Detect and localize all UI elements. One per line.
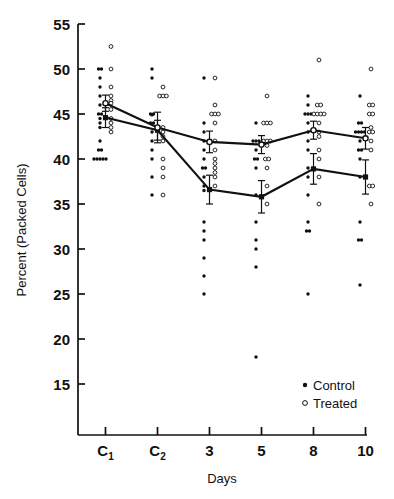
- treated-raw-points: [109, 45, 375, 206]
- control-data-point: [306, 193, 309, 196]
- treated-data-point: [217, 112, 221, 116]
- control-data-point: [360, 130, 363, 133]
- treated-data-point: [317, 157, 321, 161]
- treated-mean-series: [102, 95, 369, 154]
- treated-data-point: [265, 94, 269, 98]
- treated-data-point: [213, 157, 217, 161]
- x-axis-tick-labels: C1C235810: [97, 442, 374, 462]
- control-data-point: [98, 126, 101, 129]
- y-tick-label: 40: [53, 151, 70, 168]
- treated-data-point: [161, 139, 165, 143]
- y-axis-ticks: [78, 24, 85, 384]
- treated-mean-marker: [103, 101, 108, 106]
- x-tick-label: 8: [309, 442, 317, 459]
- control-data-point: [98, 94, 101, 97]
- x-tick-label: C2: [149, 442, 166, 462]
- treated-data-point: [369, 148, 373, 152]
- control-data-point: [306, 94, 309, 97]
- treated-data-point: [213, 76, 217, 80]
- treated-data-point: [213, 166, 217, 170]
- x-tick-label: 10: [357, 442, 374, 459]
- control-data-point: [306, 220, 309, 223]
- treated-data-point: [109, 108, 113, 112]
- control-data-point: [202, 220, 205, 223]
- control-data-point: [150, 193, 153, 196]
- control-data-point: [202, 148, 205, 151]
- control-data-point: [202, 121, 205, 124]
- control-data-point: [358, 283, 361, 286]
- y-tick-label: 20: [53, 331, 70, 348]
- control-data-point: [306, 139, 309, 142]
- scatter-plot-canvas: 152025303540455055 C1C235810 Percent (Pa…: [0, 0, 394, 499]
- control-data-point: [97, 112, 100, 115]
- control-data-point: [150, 175, 153, 178]
- control-data-point: [98, 121, 101, 124]
- y-tick-label: 50: [53, 61, 70, 78]
- treated-data-point: [317, 148, 321, 152]
- x-tick-label: 3: [205, 442, 213, 459]
- treated-data-point: [371, 130, 375, 134]
- control-data-point: [254, 238, 257, 241]
- control-data-point: [354, 130, 357, 133]
- legend-control-label: Control: [313, 378, 355, 393]
- x-axis-ticks: [106, 427, 366, 435]
- treated-data-point: [109, 130, 113, 134]
- y-tick-label: 35: [53, 196, 70, 213]
- treated-data-point: [267, 157, 271, 161]
- control-data-point: [305, 229, 308, 232]
- control-data-point: [202, 157, 205, 160]
- control-mean-marker: [103, 115, 108, 120]
- control-mean-marker: [363, 174, 368, 179]
- treated-data-point: [265, 202, 269, 206]
- y-axis-tick-labels: 152025303540455055: [53, 16, 70, 393]
- treated-data-point: [317, 135, 321, 139]
- treated-mean-marker: [259, 142, 264, 147]
- control-mean-marker: [259, 194, 264, 199]
- control-data-point: [98, 76, 101, 79]
- treated-data-point: [161, 193, 165, 197]
- control-data-point: [98, 157, 101, 160]
- treated-data-point: [161, 85, 165, 89]
- treated-data-point: [317, 202, 321, 206]
- control-data-point: [251, 139, 254, 142]
- treated-data-point: [319, 103, 323, 107]
- control-data-point: [357, 130, 360, 133]
- treated-data-point: [109, 121, 113, 125]
- control-raw-points: [92, 67, 366, 358]
- control-data-point: [358, 157, 361, 160]
- treated-data-point: [109, 45, 113, 49]
- y-tick-label: 25: [53, 286, 70, 303]
- control-data-point: [256, 157, 259, 160]
- control-data-point: [360, 238, 363, 241]
- control-data-point: [97, 148, 100, 151]
- treated-data-point: [161, 130, 165, 134]
- control-data-point: [101, 157, 104, 160]
- axis-lines: [78, 24, 367, 435]
- control-data-point: [150, 148, 153, 151]
- control-data-point: [306, 112, 309, 115]
- control-mean-line: [106, 118, 366, 197]
- y-tick-label: 15: [53, 376, 70, 393]
- control-data-point: [254, 139, 257, 142]
- control-data-point: [303, 112, 306, 115]
- control-data-point: [357, 121, 360, 124]
- control-data-point: [150, 67, 153, 70]
- treated-mean-marker: [155, 125, 160, 130]
- treated-data-point: [317, 121, 321, 125]
- control-data-point: [308, 229, 311, 232]
- treated-data-point: [269, 121, 273, 125]
- control-data-point: [202, 229, 205, 232]
- treated-data-point: [109, 67, 113, 71]
- treated-data-point: [213, 148, 217, 152]
- control-data-point: [202, 292, 205, 295]
- control-data-point: [306, 148, 309, 151]
- x-tick-label: 5: [257, 442, 265, 459]
- treated-data-point: [265, 184, 269, 188]
- treated-data-point: [213, 171, 217, 175]
- control-data-point: [357, 238, 360, 241]
- control-data-point: [202, 130, 205, 133]
- control-data-point: [254, 247, 257, 250]
- x-tick-label: C1: [97, 442, 114, 462]
- control-data-point: [95, 157, 98, 160]
- treated-data-point: [161, 166, 165, 170]
